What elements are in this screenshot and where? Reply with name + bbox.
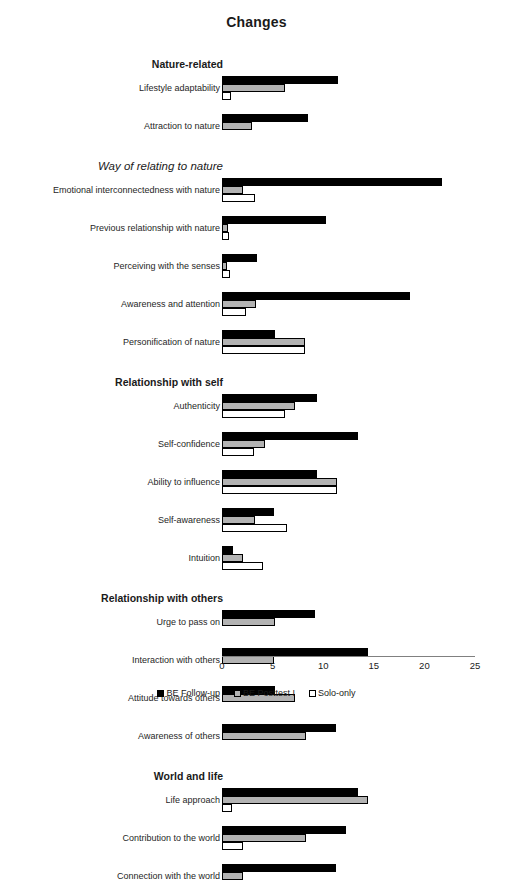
bar-solo-only[interactable] xyxy=(222,308,246,316)
bar-be-follow-up[interactable] xyxy=(222,610,315,618)
bar-be-posttest-i[interactable] xyxy=(222,516,255,524)
bar-category-label: Perceiving with the senses xyxy=(113,261,220,271)
x-axis-tick: 5 xyxy=(270,660,275,671)
bar-group-row: Life approach xyxy=(0,784,513,822)
group-heading-row: Relationship with self xyxy=(0,364,513,390)
bar-solo-only[interactable] xyxy=(222,524,287,532)
bar-be-posttest-i[interactable] xyxy=(222,554,243,562)
x-axis-tick: 10 xyxy=(318,660,329,671)
bar-be-follow-up[interactable] xyxy=(222,330,275,338)
x-axis-tick-labels: 0510152025 xyxy=(0,660,513,676)
bar-solo-only[interactable] xyxy=(222,804,232,812)
plot-area: Nature-relatedLifestyle adaptabilityAttr… xyxy=(0,46,513,656)
bar-be-posttest-i[interactable] xyxy=(222,834,306,842)
bar-category-label: Attraction to nature xyxy=(144,121,220,131)
chart-legend: BE Follow-upBE Posttest ISolo-only xyxy=(0,688,513,698)
bar-solo-only[interactable] xyxy=(222,842,243,850)
legend-item[interactable]: BE Follow-up xyxy=(157,688,220,698)
bar-solo-only[interactable] xyxy=(222,232,229,240)
bar-category-label: Intuition xyxy=(188,553,220,563)
bar-be-posttest-i[interactable] xyxy=(222,84,285,92)
legend-item[interactable]: Solo-only xyxy=(309,688,356,698)
bar-group-row: Lifestyle adaptability xyxy=(0,72,513,110)
bar-be-posttest-i[interactable] xyxy=(222,402,295,410)
group-heading-label: World and life xyxy=(154,770,223,782)
bar-category-label: Awareness and attention xyxy=(121,299,220,309)
bar-be-posttest-i[interactable] xyxy=(222,732,306,740)
legend-swatch-icon xyxy=(234,690,241,697)
x-axis-tick: 0 xyxy=(219,660,224,671)
bar-group-row: Emotional interconnectedness with nature xyxy=(0,174,513,212)
bar-solo-only[interactable] xyxy=(222,194,255,202)
bar-be-follow-up[interactable] xyxy=(222,724,336,732)
group-heading-label: Relationship with others xyxy=(101,592,223,604)
bar-group-row: Contribution to the world xyxy=(0,822,513,860)
legend-swatch-icon xyxy=(157,690,164,697)
bar-group-row: Connection with the world xyxy=(0,860,513,884)
bar-be-follow-up[interactable] xyxy=(222,470,317,478)
bar-be-posttest-i[interactable] xyxy=(222,262,227,270)
bar-group-row: Previous relationship with nature xyxy=(0,212,513,250)
bar-be-posttest-i[interactable] xyxy=(222,478,337,486)
bar-be-follow-up[interactable] xyxy=(222,114,308,122)
bar-group-row: Personification of nature xyxy=(0,326,513,364)
bar-solo-only[interactable] xyxy=(222,92,231,100)
bar-be-posttest-i[interactable] xyxy=(222,186,243,194)
bar-be-follow-up[interactable] xyxy=(222,546,233,554)
legend-label: BE Follow-up xyxy=(166,688,220,698)
bar-category-label: Previous relationship with nature xyxy=(90,223,220,233)
bar-category-label: Awareness of others xyxy=(138,731,220,741)
bar-be-follow-up[interactable] xyxy=(222,648,368,656)
bar-group-row: Attraction to nature xyxy=(0,110,513,148)
bar-category-label: Connection with the world xyxy=(117,871,220,881)
bar-group-row: Awareness of others xyxy=(0,720,513,758)
x-axis-tick: 25 xyxy=(470,660,481,671)
bar-be-follow-up[interactable] xyxy=(222,254,257,262)
group-heading-row: World and life xyxy=(0,758,513,784)
bar-be-posttest-i[interactable] xyxy=(222,122,252,130)
bar-group-row: Ability to influence xyxy=(0,466,513,504)
bar-solo-only[interactable] xyxy=(222,410,285,418)
bar-be-follow-up[interactable] xyxy=(222,432,358,440)
bar-category-label: Life approach xyxy=(165,795,220,805)
bar-group-row: Intuition xyxy=(0,542,513,580)
bar-be-follow-up[interactable] xyxy=(222,292,410,300)
bar-be-follow-up[interactable] xyxy=(222,178,442,186)
bar-category-label: Ability to influence xyxy=(147,477,220,487)
group-heading-row: Relationship with others xyxy=(0,580,513,606)
bar-be-posttest-i[interactable] xyxy=(222,440,265,448)
bar-group-row: Authenticity xyxy=(0,390,513,428)
bar-solo-only[interactable] xyxy=(222,270,230,278)
bar-category-label: Self-confidence xyxy=(158,439,220,449)
bar-be-follow-up[interactable] xyxy=(222,508,274,516)
bar-group-row: Self-awareness xyxy=(0,504,513,542)
chart-title: Changes xyxy=(0,14,513,30)
bar-be-follow-up[interactable] xyxy=(222,216,326,224)
bar-category-label: Authenticity xyxy=(173,401,220,411)
bar-be-follow-up[interactable] xyxy=(222,864,336,872)
bar-group-row: Urge to pass on xyxy=(0,606,513,644)
x-axis-tick: 20 xyxy=(419,660,430,671)
bar-category-label: Emotional interconnectedness with nature xyxy=(53,185,220,195)
bar-be-posttest-i[interactable] xyxy=(222,872,243,880)
bar-be-posttest-i[interactable] xyxy=(222,618,275,626)
bar-be-posttest-i[interactable] xyxy=(222,338,305,346)
group-heading-label: Way of relating to nature xyxy=(98,160,223,172)
group-heading-row: Nature-related xyxy=(0,46,513,72)
bar-solo-only[interactable] xyxy=(222,562,263,570)
group-heading-label: Relationship with self xyxy=(115,376,223,388)
bar-be-follow-up[interactable] xyxy=(222,394,317,402)
bar-be-follow-up[interactable] xyxy=(222,76,338,84)
legend-item[interactable]: BE Posttest I xyxy=(234,688,295,698)
bar-be-follow-up[interactable] xyxy=(222,826,346,834)
bar-solo-only[interactable] xyxy=(222,448,254,456)
group-heading-row: Way of relating to nature xyxy=(0,148,513,174)
bar-be-posttest-i[interactable] xyxy=(222,796,368,804)
bar-solo-only[interactable] xyxy=(222,486,337,494)
bar-solo-only[interactable] xyxy=(222,346,305,354)
bar-be-posttest-i[interactable] xyxy=(222,300,256,308)
bar-category-label: Urge to pass on xyxy=(156,617,220,627)
bar-be-follow-up[interactable] xyxy=(222,788,358,796)
bar-be-posttest-i[interactable] xyxy=(222,224,228,232)
